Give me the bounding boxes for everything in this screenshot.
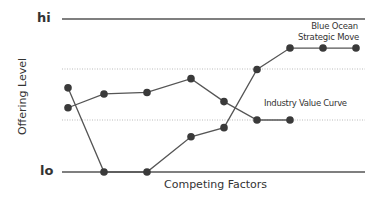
data-point	[143, 89, 151, 97]
annotation-blue-ocean: Blue Ocean Strategic Move	[310, 21, 359, 43]
data-point	[143, 168, 151, 176]
data-point	[100, 90, 108, 98]
series-line-1	[68, 48, 356, 172]
y-axis-label: Offering Level	[16, 57, 29, 137]
y-tick-hi: hi	[37, 10, 51, 25]
data-point	[319, 44, 327, 52]
data-point	[286, 44, 294, 52]
data-point	[253, 116, 261, 124]
data-point	[220, 124, 228, 132]
data-point	[64, 104, 72, 112]
annotation-blue-ocean-line1: Blue Ocean	[310, 21, 359, 32]
x-axis-label: Competing Factors	[164, 178, 267, 191]
data-point	[220, 98, 228, 106]
data-point	[187, 75, 195, 83]
data-point	[286, 116, 294, 124]
data-point	[352, 44, 360, 52]
data-point	[100, 168, 108, 176]
series-line-0	[68, 79, 290, 120]
annotation-blue-ocean-line2: Strategic Move	[298, 32, 359, 43]
series-group	[64, 44, 360, 176]
annotation-industry: Industry Value Curve	[264, 98, 347, 108]
y-tick-lo: lo	[40, 163, 53, 178]
data-point	[187, 133, 195, 141]
data-point	[253, 66, 261, 74]
data-point	[64, 84, 72, 92]
